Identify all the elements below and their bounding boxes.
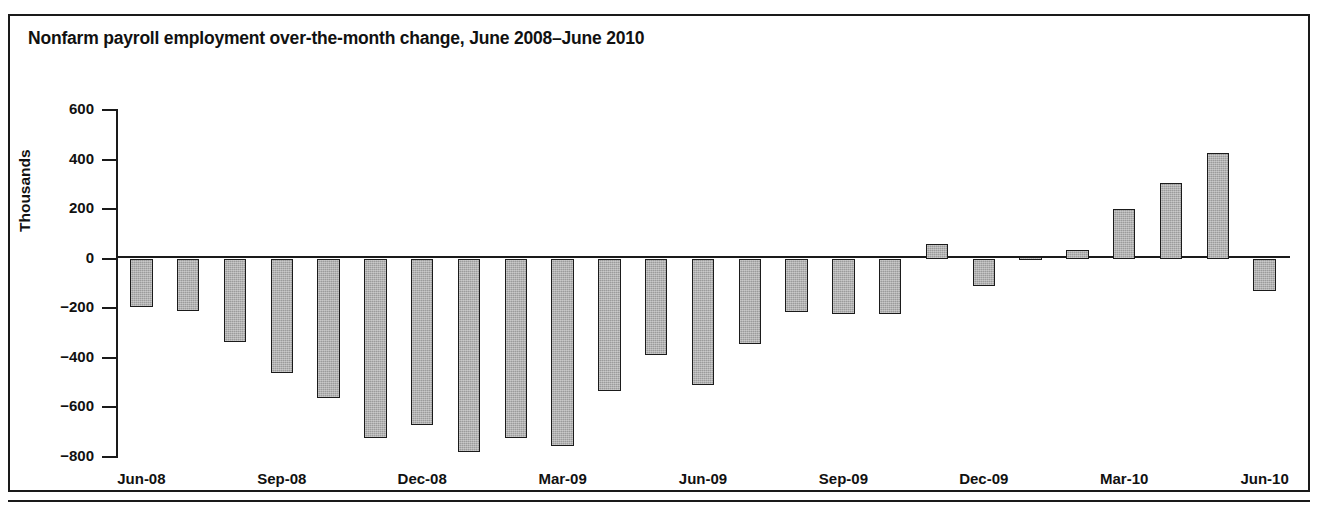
bar [271,259,293,374]
bar [879,259,901,315]
y-tick-mark [102,109,118,111]
x-tick-label: Sep-08 [257,470,306,487]
bar [1066,250,1088,259]
bar [598,259,620,392]
x-tick-label: Jun-10 [1240,470,1288,487]
figure-bottom-rule [8,500,1310,502]
bar [692,259,714,385]
x-tick-label: Sep-09 [819,470,868,487]
x-tick-label: Dec-08 [398,470,447,487]
y-tick-mark [102,159,118,161]
bar [1019,257,1041,260]
x-tick-label: Jun-09 [679,470,727,487]
y-tick-label: 400 [30,150,94,167]
y-tick-mark [102,307,118,309]
y-tick-mark [102,258,118,260]
bar [505,259,527,439]
page-title: Nonfarm payroll employment over-the-mont… [28,28,1268,54]
bar [411,259,433,425]
y-tick-mark [102,406,118,408]
y-axis-line [116,110,118,457]
y-tick-label: 600 [30,100,94,117]
y-tick-mark [102,357,118,359]
x-tick-label: Dec-09 [959,470,1008,487]
chart-figure: Nonfarm payroll employment over-the-mont… [0,0,1323,514]
x-tick-label: Jun-08 [117,470,165,487]
bar [739,259,761,345]
bar [1207,153,1229,258]
bar [364,259,386,439]
bar [973,259,995,286]
bar [458,259,480,452]
y-tick-label: −800 [30,447,94,464]
y-tick-label: −600 [30,397,94,414]
x-tick-label: Mar-09 [538,470,586,487]
y-tick-label: −400 [30,348,94,365]
y-tick-mark [102,456,118,458]
x-tick-label: Mar-10 [1100,470,1148,487]
bar [832,259,854,315]
bar [551,259,573,446]
bar [317,259,339,398]
y-tick-label: −200 [30,298,94,315]
y-tick-label: 0 [30,249,94,266]
bar [130,259,152,307]
bar [785,259,807,312]
bar [645,259,667,356]
bar [1160,183,1182,259]
bar [1253,259,1275,291]
bar [224,259,246,342]
bar [1113,209,1135,259]
bar [177,259,199,311]
bar [926,244,948,259]
y-tick-label: 200 [30,199,94,216]
y-tick-mark [102,208,118,210]
